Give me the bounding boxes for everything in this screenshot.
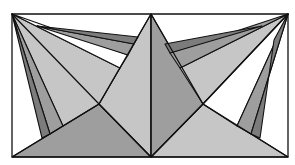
geometric-pattern-canvas xyxy=(0,0,295,165)
polygon-layer xyxy=(12,14,288,157)
geometric-figure xyxy=(0,0,295,165)
